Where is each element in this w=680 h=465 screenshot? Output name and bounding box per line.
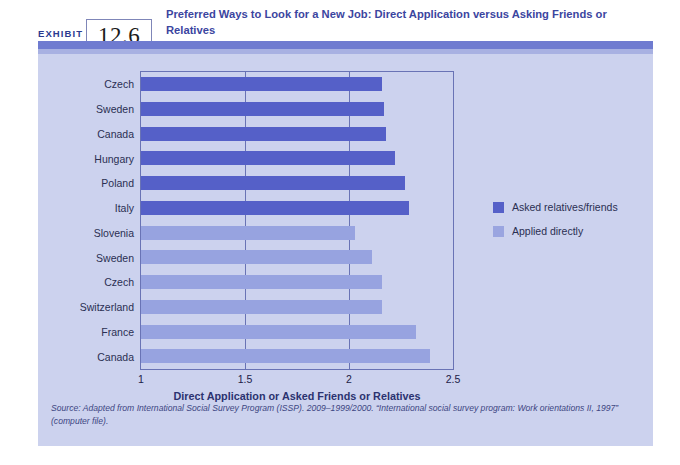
- x-tick-label: 2.5: [446, 373, 461, 385]
- bar-row: Czech: [141, 72, 453, 97]
- bar: [141, 275, 382, 289]
- bar: [141, 349, 430, 363]
- legend-swatch: [493, 226, 504, 237]
- category-label: Sweden: [96, 252, 134, 264]
- bar-row: Switzerland: [141, 295, 453, 320]
- legend-item: Applied directly: [493, 225, 618, 237]
- x-tick-label: 1.5: [238, 373, 253, 385]
- bar: [141, 201, 409, 215]
- plot-area: CzechSwedenCanadaHungaryPolandItalySlove…: [140, 71, 454, 370]
- category-label: Poland: [101, 177, 134, 189]
- bar: [141, 325, 416, 339]
- bar-row: Sweden: [141, 97, 453, 122]
- category-label: Canada: [97, 351, 134, 363]
- bar-row: Canada: [141, 344, 453, 369]
- bar: [141, 77, 382, 91]
- bar: [141, 127, 386, 141]
- bar-row: Italy: [141, 196, 453, 221]
- category-label: Sweden: [96, 103, 134, 115]
- category-label: Italy: [115, 202, 134, 214]
- legend-label: Asked relatives/friends: [512, 201, 618, 213]
- bar-series: CzechSwedenCanadaHungaryPolandItalySlove…: [141, 72, 453, 369]
- category-label: Switzerland: [80, 301, 134, 313]
- bar-row: Czech: [141, 270, 453, 295]
- chart-panel: CzechSwedenCanadaHungaryPolandItalySlove…: [38, 54, 653, 446]
- bar: [141, 151, 395, 165]
- bar-row: Slovenia: [141, 221, 453, 246]
- x-tick-label: 2: [346, 373, 352, 385]
- category-label: Canada: [97, 128, 134, 140]
- x-tick-label: 1: [138, 373, 144, 385]
- bar: [141, 102, 384, 116]
- legend-swatch: [493, 202, 504, 213]
- bar-row: Hungary: [141, 146, 453, 171]
- header-rule-dark: [38, 41, 653, 49]
- category-label: Slovenia: [94, 227, 134, 239]
- chart-legend: Asked relatives/friendsApplied directly: [493, 201, 618, 249]
- bar: [141, 226, 355, 240]
- x-axis-title: Direct Application or Asked Friends or R…: [174, 390, 421, 402]
- bar-row: Sweden: [141, 245, 453, 270]
- bar: [141, 300, 382, 314]
- legend-label: Applied directly: [512, 225, 583, 237]
- source-note: Source: Adapted from International Socia…: [51, 402, 637, 427]
- category-label: Czech: [104, 78, 134, 90]
- bar-row: Poland: [141, 171, 453, 196]
- exhibit-header: EXHIBIT 12.6 Preferred Ways to Look for …: [0, 0, 680, 58]
- bar-row: Canada: [141, 122, 453, 147]
- category-label: France: [101, 326, 134, 338]
- exhibit-title: Preferred Ways to Look for a New Job: Di…: [166, 7, 646, 38]
- category-label: Czech: [104, 276, 134, 288]
- bar: [141, 176, 405, 190]
- legend-item: Asked relatives/friends: [493, 201, 618, 213]
- exhibit-label: EXHIBIT: [38, 28, 83, 39]
- bar-row: France: [141, 320, 453, 345]
- bar: [141, 250, 372, 264]
- category-label: Hungary: [94, 153, 134, 165]
